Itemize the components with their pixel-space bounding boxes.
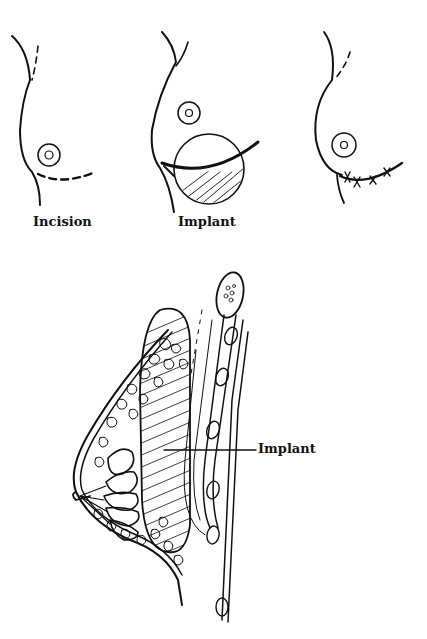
incision-label: Incision	[33, 214, 92, 229]
sutured-view-panel	[290, 0, 427, 240]
implant-view-panel: Implant	[140, 0, 280, 240]
implant-drawing	[140, 0, 280, 240]
cross-section-drawing	[0, 260, 427, 639]
incision-view-panel: Incision	[0, 0, 140, 240]
mammary-gland-lobes	[80, 449, 139, 540]
incision-drawing	[0, 0, 140, 240]
implant-outline	[140, 309, 190, 553]
bone-dots	[224, 285, 236, 303]
implant-callout-label: Implant	[258, 441, 316, 456]
implant-step-label: Implant	[178, 214, 236, 229]
sutured-drawing	[290, 0, 427, 240]
implant-hatching	[170, 168, 254, 212]
cross-section-panel: Implant	[0, 260, 427, 639]
suture-stitches	[345, 168, 390, 187]
